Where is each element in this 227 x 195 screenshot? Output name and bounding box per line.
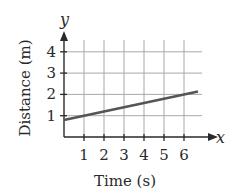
x-tick-label: 1 (79, 146, 89, 164)
y-tick-label: 2 (46, 85, 56, 103)
y-axis-title: Distance (m) (16, 39, 34, 136)
y-tick-label: 1 (46, 107, 56, 125)
distance-time-chart: 1234561234 x y Time (s) Distance (m) (0, 0, 227, 195)
grid-lines (64, 40, 202, 137)
x-tick-label: 5 (159, 146, 169, 164)
tick-marks (60, 52, 184, 141)
x-axis-title: Time (s) (94, 172, 156, 190)
x-tick-label: 4 (139, 146, 149, 164)
x-axis-variable: x (216, 128, 225, 147)
x-tick-label: 6 (179, 146, 189, 164)
y-axis-variable: y (59, 10, 70, 29)
y-axis-arrow-icon (60, 31, 68, 41)
y-tick-label: 3 (46, 64, 56, 82)
x-tick-label: 2 (99, 146, 109, 164)
y-tick-label: 4 (46, 43, 56, 61)
tick-labels: 1234561234 (46, 43, 188, 164)
x-tick-label: 3 (119, 146, 129, 164)
